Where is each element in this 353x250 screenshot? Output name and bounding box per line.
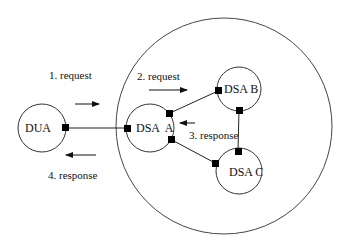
port-dua [62, 124, 69, 131]
label-dua: DUA [25, 121, 51, 135]
port-dsa-a-top [166, 110, 173, 117]
port-dsa-a-bottom [168, 136, 175, 143]
edge-dsa-a-dsa-b [170, 91, 218, 113]
label-dsa-c: DSA C [229, 165, 263, 179]
label-step-2: 2. request [137, 70, 180, 82]
port-dsa-b-bottom [236, 107, 243, 114]
port-dsa-a-left [124, 125, 131, 132]
label-step-4: 4. response [48, 169, 98, 181]
port-dsa-c-left [212, 160, 219, 167]
diagram-canvas: DUA DSA A DSA B DSA C 1. request 2. requ… [0, 0, 353, 250]
port-dsa-c-top [235, 148, 242, 155]
label-step-1: 1. request [49, 69, 92, 81]
edge-dsa-a-dsa-c [172, 140, 215, 163]
label-step-3: 3. response [189, 129, 239, 141]
port-dsa-b-left [215, 87, 222, 94]
label-dsa-a: DSA A [136, 121, 174, 135]
label-dsa-b: DSA B [224, 82, 258, 96]
